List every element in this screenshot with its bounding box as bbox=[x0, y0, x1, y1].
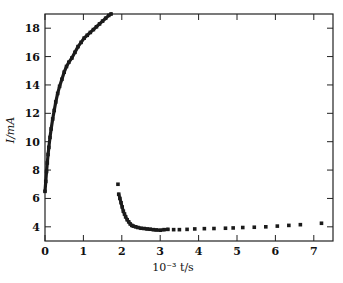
y-tick-label: 4 bbox=[32, 221, 40, 234]
x-tick-label: 4 bbox=[195, 245, 203, 258]
data-point-discharging bbox=[231, 226, 235, 230]
y-tick-label: 8 bbox=[32, 164, 40, 177]
x-axis-label: 10⁻³ t/s bbox=[152, 261, 194, 274]
x-tick-label: 2 bbox=[118, 245, 126, 258]
series-trace-charging bbox=[45, 14, 111, 191]
data-point-discharging bbox=[212, 227, 216, 231]
data-point-discharging bbox=[252, 225, 256, 229]
x-tick-label: 7 bbox=[310, 245, 318, 258]
y-axis-ticks: 4681012141618 bbox=[25, 22, 333, 234]
x-tick-label: 3 bbox=[156, 245, 164, 258]
y-tick-label: 14 bbox=[25, 79, 41, 92]
data-point-discharging bbox=[241, 226, 245, 230]
data-point-discharging bbox=[287, 224, 291, 228]
data-point-discharging bbox=[264, 225, 268, 229]
plot-frame bbox=[45, 14, 333, 241]
x-tick-label: 0 bbox=[41, 245, 49, 258]
data-points bbox=[43, 12, 323, 232]
y-axis-label: I/mA bbox=[4, 117, 17, 144]
data-point-discharging bbox=[193, 227, 197, 231]
data-point-discharging bbox=[320, 221, 324, 225]
y-tick-label: 6 bbox=[32, 192, 40, 205]
data-point-discharging bbox=[276, 224, 280, 228]
data-point-discharging bbox=[299, 223, 303, 227]
series-trace-discharging bbox=[119, 194, 168, 230]
data-point-discharging bbox=[224, 226, 228, 230]
data-point-discharging bbox=[185, 228, 189, 232]
y-tick-label: 18 bbox=[25, 22, 41, 35]
data-point-discharging bbox=[116, 182, 120, 186]
data-point-discharging bbox=[178, 228, 182, 232]
x-axis-ticks: 01234567 bbox=[41, 14, 317, 258]
y-tick-label: 16 bbox=[25, 51, 41, 64]
data-point-discharging bbox=[172, 228, 176, 232]
data-point-discharging bbox=[203, 227, 207, 231]
y-tick-label: 10 bbox=[25, 136, 41, 149]
x-tick-label: 1 bbox=[80, 245, 88, 258]
x-tick-label: 5 bbox=[233, 245, 241, 258]
chart: 01234567 4681012141618 10⁻³ t/s I/mA bbox=[0, 0, 343, 283]
x-tick-label: 6 bbox=[272, 245, 280, 258]
y-tick-label: 12 bbox=[25, 107, 40, 120]
